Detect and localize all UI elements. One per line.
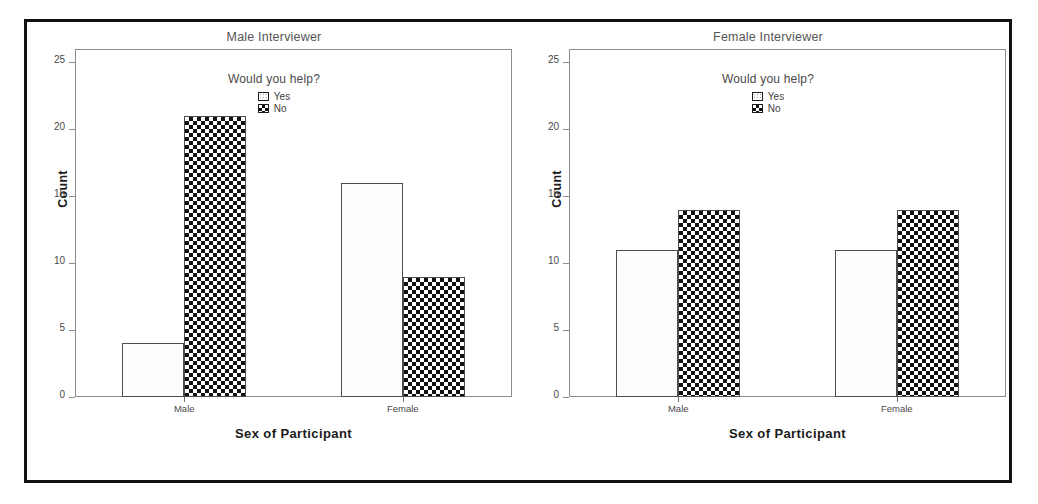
bar-female-no: [403, 277, 465, 397]
y-tick-label: 10: [548, 255, 559, 266]
x-axis-title: Sex of Participant: [569, 426, 1006, 441]
bar-male-no: [184, 116, 246, 397]
bars-layer: [75, 49, 512, 397]
bar-female-yes: [835, 250, 897, 397]
y-tick-label: 5: [59, 322, 65, 333]
panel-title: Female Interviewer: [521, 30, 1015, 44]
y-tick-label: 0: [553, 389, 559, 400]
bar-male-yes: [122, 343, 184, 397]
y-tick-label: 15: [54, 188, 65, 199]
y-tick-label: 25: [548, 54, 559, 65]
y-tick-label: 20: [54, 121, 65, 132]
x-tick-mark: [678, 397, 679, 402]
bar-female-no: [897, 210, 959, 397]
x-tick-label: Female: [343, 403, 463, 414]
y-tick-label: 15: [548, 188, 559, 199]
x-tick-mark: [403, 397, 404, 402]
chart-panel-female-interviewer: Female Interviewer Count 0510152025 Male…: [521, 22, 1015, 480]
x-axis-title: Sex of Participant: [75, 426, 512, 441]
y-tick-label: 20: [548, 121, 559, 132]
y-tick-label: 10: [54, 255, 65, 266]
y-tick-mark: [563, 397, 569, 398]
y-tick-label: 5: [553, 322, 559, 333]
bar-female-yes: [341, 183, 403, 397]
y-tick-label: 0: [59, 389, 65, 400]
x-tick-label: Female: [837, 403, 957, 414]
x-tick-mark: [184, 397, 185, 402]
x-tick-mark: [897, 397, 898, 402]
bar-male-no: [678, 210, 740, 397]
x-tick-label: Male: [618, 403, 738, 414]
y-tick-label: 25: [54, 54, 65, 65]
chart-panel-male-interviewer: Male Interviewer Count 0510152025 MaleFe…: [27, 22, 521, 480]
figure-outer-border: Male Interviewer Count 0510152025 MaleFe…: [24, 19, 1012, 483]
bars-layer: [569, 49, 1006, 397]
x-tick-label: Male: [124, 403, 244, 414]
panel-title: Male Interviewer: [27, 30, 521, 44]
bar-male-yes: [616, 250, 678, 397]
y-tick-mark: [69, 397, 75, 398]
